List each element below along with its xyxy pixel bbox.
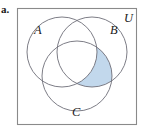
set-label-a: A — [33, 23, 42, 37]
venn-diagram-figure: a. — [0, 0, 144, 133]
set-label-b: B — [110, 23, 118, 37]
set-label-c: C — [72, 105, 81, 119]
universe-set-label: U — [124, 11, 134, 25]
venn-diagram-svg: A B C U — [0, 0, 144, 133]
